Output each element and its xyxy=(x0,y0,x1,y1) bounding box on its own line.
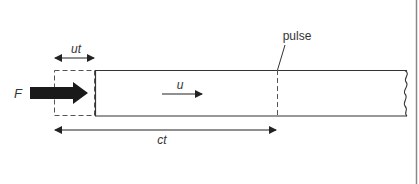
ct-label: ct xyxy=(157,133,167,147)
force: F xyxy=(14,82,88,104)
ut-label: ut xyxy=(71,42,82,56)
ut-dimension: ut xyxy=(55,42,94,58)
force-label: F xyxy=(14,86,23,101)
pulse-leader-line xyxy=(278,45,286,70)
pulse-label: pulse xyxy=(283,29,312,43)
force-arrow-icon xyxy=(30,82,88,104)
bar-broken-end-icon xyxy=(404,71,407,117)
velocity-label: u xyxy=(177,78,184,92)
pulse-bar-diagram: ut F u pulse ct xyxy=(0,0,419,184)
pulse-front: pulse xyxy=(278,29,312,116)
velocity: u xyxy=(162,78,202,94)
ct-dimension: ct xyxy=(55,130,276,147)
bar xyxy=(95,70,407,116)
